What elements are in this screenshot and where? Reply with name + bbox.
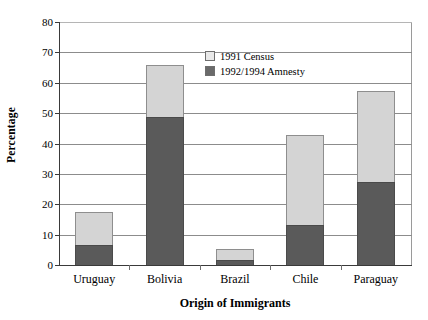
bar-segment-census[interactable] (357, 91, 395, 184)
x-axis-tick-labels: UruguayBoliviaBrazilChileParaguay (59, 272, 411, 292)
legend-swatch-census-icon (205, 51, 215, 61)
bar-segment-amnesty[interactable] (75, 245, 113, 266)
legend-swatch-amnesty-icon (205, 66, 215, 76)
y-axis-tick-label: 10 (23, 229, 53, 240)
bar-stack[interactable] (146, 65, 184, 265)
bar-stack[interactable] (286, 135, 324, 265)
y-axis-tick-label: 40 (23, 138, 53, 149)
y-axis-tick-label: 0 (23, 260, 53, 271)
bar-group[interactable] (146, 0, 184, 265)
x-axis-tick-label: Uruguay (59, 272, 129, 287)
bar-segment-amnesty[interactable] (357, 182, 395, 266)
bar-chart: Percentage 01020304050607080 UruguayBoli… (0, 0, 428, 320)
legend-item-label: 1991 Census (220, 51, 274, 62)
bar-segment-amnesty[interactable] (286, 225, 324, 266)
x-axis-tick-mark (200, 265, 201, 270)
x-axis-tick-label: Paraguay (341, 272, 411, 287)
bar-group[interactable] (357, 0, 395, 265)
legend-item[interactable]: 1992/1994 Amnesty (205, 64, 305, 78)
bar-group[interactable] (75, 0, 113, 265)
chart-legend: 1991 Census1992/1994 Amnesty (203, 47, 309, 81)
y-axis-tick-label: 30 (23, 168, 53, 179)
x-axis-tick-mark (129, 265, 130, 270)
x-axis-title: Origin of Immigrants (59, 296, 411, 311)
x-axis-tick-label: Chile (270, 272, 340, 287)
y-axis-title-label: Percentage (5, 107, 17, 163)
bar-segment-census[interactable] (286, 135, 324, 226)
x-axis-tick-label: Brazil (200, 272, 270, 287)
y-axis-tick-label: 20 (23, 199, 53, 210)
y-axis-tick-label: 60 (23, 77, 53, 88)
bar-group[interactable] (216, 0, 254, 265)
bar-stack[interactable] (216, 249, 254, 265)
bar-segment-amnesty[interactable] (146, 117, 184, 266)
bar-group[interactable] (286, 0, 324, 265)
bar-segment-census[interactable] (75, 212, 113, 245)
y-axis-tick-labels: 01020304050607080 (22, 0, 58, 290)
y-axis-title: Percentage (0, 0, 22, 270)
bar-stack[interactable] (75, 212, 113, 265)
legend-item-label: 1992/1994 Amnesty (220, 66, 305, 77)
bars-layer (59, 0, 411, 265)
x-axis-tick-label: Bolivia (129, 272, 199, 287)
legend-item[interactable]: 1991 Census (205, 49, 305, 63)
x-axis-tick-mark (270, 265, 271, 270)
y-axis-tick-label: 80 (23, 17, 53, 28)
x-axis-tick-mark (341, 265, 342, 270)
bar-segment-census[interactable] (146, 65, 184, 118)
x-axis-line (59, 265, 412, 266)
y-axis-tick-label: 70 (23, 47, 53, 58)
bar-stack[interactable] (357, 91, 395, 265)
y-axis-tick-label: 50 (23, 108, 53, 119)
